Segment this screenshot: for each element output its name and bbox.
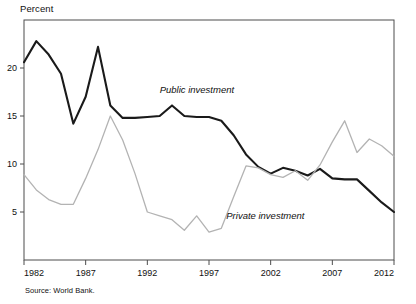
- y-tick-label: 5: [12, 207, 17, 217]
- series-line-private-investment: [24, 116, 394, 232]
- y-tick-label: 10: [7, 159, 17, 169]
- x-tick-label: 1992: [137, 268, 157, 278]
- plot-frame: [24, 20, 394, 260]
- chart-plot-area: 5101520 1982198719921997200220072012 Pub…: [0, 0, 416, 304]
- x-tick-label: 2012: [374, 268, 394, 278]
- series-line-public-investment: [24, 41, 394, 212]
- plot-frame-group: [24, 20, 394, 260]
- y-tick-label: 15: [7, 111, 17, 121]
- x-axis-ticks: 1982198719921997200220072012: [24, 260, 394, 278]
- x-tick-label: 1982: [24, 268, 44, 278]
- label-public-investment: Public investment: [160, 84, 235, 95]
- investment-line-chart-figure: Percent 5101520 198219871992199720022007…: [0, 0, 416, 304]
- label-private-investment: Private investment: [226, 210, 305, 221]
- x-tick-label: 1987: [76, 268, 96, 278]
- x-tick-label: 2002: [261, 268, 281, 278]
- data-series-group: [24, 41, 394, 232]
- y-tick-label: 20: [7, 63, 17, 73]
- x-tick-label: 2007: [322, 268, 342, 278]
- source-note: Source: World Bank.: [25, 286, 95, 295]
- y-axis-ticks: 5101520: [7, 63, 24, 217]
- x-tick-label: 1997: [199, 268, 219, 278]
